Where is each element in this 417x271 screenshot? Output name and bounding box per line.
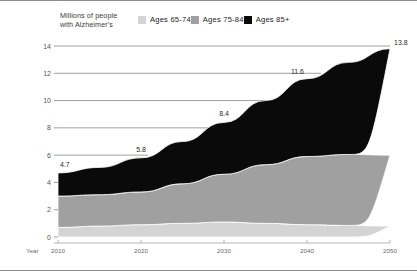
svg-text:2010: 2010 bbox=[51, 247, 65, 254]
svg-text:14: 14 bbox=[43, 43, 51, 50]
svg-text:11.6: 11.6 bbox=[291, 68, 304, 75]
svg-text:4.7: 4.7 bbox=[60, 161, 70, 168]
x-axis-tick-labels: 20102020203020402050 bbox=[51, 247, 397, 254]
svg-text:12: 12 bbox=[43, 70, 51, 77]
svg-text:5.8: 5.8 bbox=[136, 146, 146, 153]
svg-text:2040: 2040 bbox=[300, 247, 314, 254]
svg-text:2: 2 bbox=[47, 206, 51, 213]
x-axis-title: Year bbox=[26, 247, 39, 254]
svg-text:8.4: 8.4 bbox=[219, 110, 229, 117]
svg-text:4: 4 bbox=[47, 179, 51, 186]
svg-text:0: 0 bbox=[47, 234, 51, 241]
svg-text:2020: 2020 bbox=[134, 247, 148, 254]
svg-text:2030: 2030 bbox=[217, 247, 231, 254]
svg-text:6: 6 bbox=[47, 152, 51, 159]
svg-text:10: 10 bbox=[43, 97, 51, 104]
svg-text:8: 8 bbox=[47, 124, 51, 131]
chart-container: Millions of people with Alzheimer's Ages… bbox=[0, 0, 417, 271]
area-chart-svg: 02468101214 20102020203020402050 4.75.88… bbox=[0, 1, 417, 271]
svg-text:2050: 2050 bbox=[383, 247, 397, 254]
x-axis-line-group bbox=[54, 240, 390, 243]
y-axis-tick-labels: 02468101214 bbox=[43, 43, 58, 241]
svg-text:13.8: 13.8 bbox=[394, 39, 408, 46]
area-series-group bbox=[58, 49, 390, 237]
